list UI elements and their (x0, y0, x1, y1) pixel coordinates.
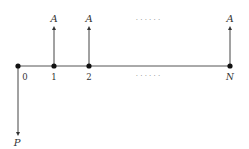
inflow-label-1: A (49, 13, 57, 24)
period-label-0: 0 (22, 72, 27, 82)
period-label-1: 1 (51, 72, 56, 82)
node-1 (51, 63, 56, 68)
node-0 (15, 63, 20, 68)
node-2 (86, 63, 91, 68)
inflow-label-2: A (84, 13, 92, 24)
inflow-label-N: A (225, 13, 233, 24)
ellipsis-upper: · · · · · · (136, 16, 160, 24)
node-N (227, 63, 232, 68)
outflow-label-0: P (13, 137, 21, 148)
period-label-2: 2 (86, 72, 91, 82)
ellipsis-lower: · · · · · · (136, 72, 160, 80)
period-label-N: N (225, 72, 235, 82)
cash-flow-diagram: A A A 0 1 2 N P · · · · · · · · · · · · (0, 0, 249, 149)
